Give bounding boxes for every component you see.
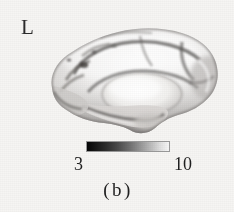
colorbar-gradient xyxy=(86,141,170,152)
cortex-body xyxy=(22,16,222,138)
caption-letter: b xyxy=(112,179,122,200)
caption-close-paren: ) xyxy=(122,179,133,200)
figure-panel-b: L xyxy=(0,0,234,212)
colorbar-tick-labels: 3 10 xyxy=(86,153,170,175)
sulcal-pit xyxy=(80,62,88,68)
colorbar-min-label: 3 xyxy=(74,153,83,175)
brain-surface-svg xyxy=(22,16,222,138)
colorbar-max-label: 10 xyxy=(174,153,192,175)
panel-caption: (b) xyxy=(0,178,234,202)
colorbar: 3 10 xyxy=(86,141,170,175)
brain-surface-render xyxy=(22,16,222,138)
caption-open-paren: ( xyxy=(101,179,112,200)
